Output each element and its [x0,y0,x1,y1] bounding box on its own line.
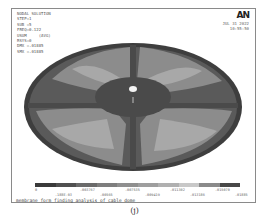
ansys-plot-frame: NODAL SOLUTION STEP=1 SUB =5 FREQ=0.122 … [11,8,256,203]
timestamp: JUL 31 202210:55:50 [223,21,250,31]
contour-legend-bar [35,183,240,187]
figure-label: (j) [0,206,269,215]
plot-caption: membrane form finding analysis of cable … [16,198,135,203]
dome-contour-plot [22,39,244,174]
ansys-logo: AN [237,10,250,20]
